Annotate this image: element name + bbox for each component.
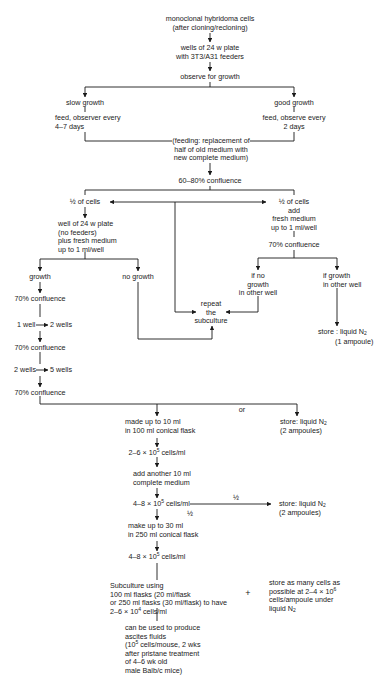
node-store-2-ampoules-b: store: liquid N2(2 ampoules) <box>279 500 326 517</box>
node-if-no-growth: if no growth in other well <box>239 272 277 298</box>
node-growth: growth <box>29 273 51 282</box>
node-good-feed: feed, observe every 2 days <box>262 114 325 131</box>
node-start: monoclonal hybridoma cells (after clonin… <box>166 15 255 32</box>
node-conc-2-6e5: 2–6 × 105 cells/ml <box>129 449 186 458</box>
node-five-wells: 5 wells <box>50 366 72 375</box>
node-store-1-ampoule-count: (1 ampoule) <box>335 338 373 347</box>
node-confluence-70-b: 70% confluence <box>14 344 65 353</box>
node-ascites: can be used to produce ascites fluids(10… <box>125 624 200 676</box>
node-conc-4-8e5: 4–8 × 105 cells/ml <box>133 500 190 509</box>
node-store-2-ampoules: store: liquid N2(2 ampoules) <box>280 418 327 435</box>
node-confluence-70-c: 70% confluence <box>14 389 65 398</box>
node-slow-growth: slow growth <box>66 99 104 108</box>
half-label-down: ½ <box>187 510 193 519</box>
node-well-no-feeders: well of 24 w plate (no feeders) plus fre… <box>58 220 117 254</box>
node-good-growth: good growth <box>274 99 314 108</box>
node-if-growth: if growth in other well <box>323 272 361 289</box>
node-half-cells-right: ½ of cells add fresh medium up to 1 ml/w… <box>271 198 317 232</box>
node-make-up-30ml: make up to 30 ml in 250 ml conical flask <box>128 522 198 539</box>
node-two-wells-b: 2 wells <box>14 366 36 375</box>
node-store-1-ampoule: store : liquid N2 <box>318 328 367 337</box>
node-feeding-note: (feeding: replacement of half of old med… <box>172 137 250 163</box>
node-confluence-70-a: 70% confluence <box>14 295 65 304</box>
node-no-growth: no growth <box>122 273 154 282</box>
node-confluence-60-80: 60–80% confluence <box>178 177 241 186</box>
node-store-many-cells: store as many cells aspossible at 2–4 × … <box>269 579 340 613</box>
node-half-cells-left: ½ of cells <box>70 198 100 207</box>
node-two-wells: 2 wells <box>50 321 72 330</box>
node-one-well: 1 well <box>17 321 35 330</box>
node-slow-feed: feed, observer every 4–7 days <box>55 114 121 131</box>
node-observe-growth: observe for growth <box>180 73 240 82</box>
node-repeat-subculture: repeat the subculture <box>194 300 227 326</box>
half-label-right: ½ <box>233 494 239 503</box>
plus-sign: + <box>245 589 250 598</box>
node-conc-4-8e5-b: 4–8 × 105 cells/ml <box>129 553 186 562</box>
flowchart-canvas: monoclonal hybridoma cells (after clonin… <box>0 0 387 689</box>
or-label: or <box>239 406 245 415</box>
node-subculture: Subculture using 100 ml flasks (20 ml/fl… <box>110 582 227 616</box>
node-confluence-70-right: 70% confluence <box>268 241 319 250</box>
node-made-up-10ml: made up to 10 ml in 100 ml conical flask <box>125 418 195 435</box>
node-add-another-10ml: add another 10 ml complete medium <box>133 470 191 487</box>
node-wells-with-feeders: wells of 24 w plate with 3T3/A31 feeders <box>176 44 244 61</box>
